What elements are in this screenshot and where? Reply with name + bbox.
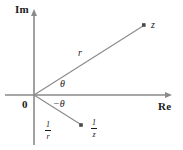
r-length-label: r [78, 48, 82, 58]
imaginary-axis-arrowhead [31, 9, 37, 16]
one-over-z-point-label: 1 z [91, 119, 97, 139]
z-point-label: z [151, 20, 155, 30]
ray-to-z-line [34, 26, 143, 95]
minus-theta-angle-label: −θ [53, 99, 65, 109]
one-over-r-numerator: 1 [45, 121, 51, 130]
one-over-z-point-marker [79, 123, 83, 127]
one-over-r-length-label: 1 r [45, 121, 51, 141]
one-over-z-denominator: z [91, 130, 97, 139]
real-axis-arrowhead [165, 92, 172, 98]
z-point-marker [142, 23, 146, 27]
one-over-r-denominator: r [45, 132, 51, 141]
one-over-r-fraction-bar [45, 130, 51, 131]
one-over-z-numerator: 1 [91, 119, 97, 128]
imaginary-axis-label: Im [15, 4, 29, 15]
origin-label: 0 [22, 99, 28, 110]
complex-plane-figure: Im Re 0 z r θ −θ 1 r 1 z [0, 0, 183, 150]
theta-angle-label: θ [60, 79, 65, 89]
one-over-z-fraction-bar [91, 128, 97, 129]
real-axis-label: Re [158, 101, 171, 112]
